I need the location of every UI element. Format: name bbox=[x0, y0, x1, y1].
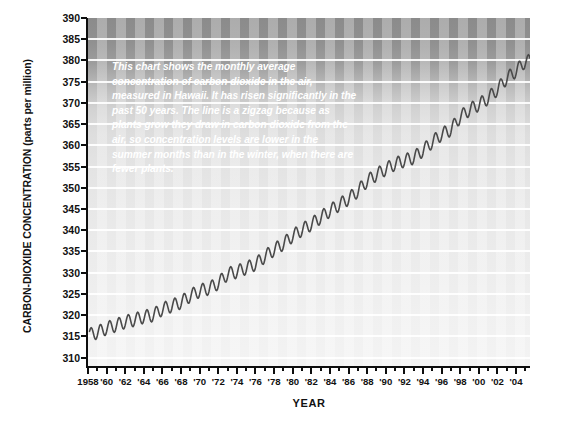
x-axis-tick-mark bbox=[199, 368, 201, 374]
y-axis-tick-label: 325 bbox=[44, 289, 80, 299]
y-axis-tick-mark bbox=[81, 357, 87, 359]
y-axis-tick-label: 320 bbox=[44, 310, 80, 320]
x-axis-minor-tick-mark bbox=[171, 368, 173, 371]
y-axis-tick-label: 360 bbox=[44, 140, 80, 150]
x-axis-tick-label: '92 bbox=[398, 376, 411, 387]
x-axis-minor-tick-mark bbox=[394, 368, 396, 371]
y-axis-tick-label: 330 bbox=[44, 268, 80, 278]
y-axis-tick-mark bbox=[81, 229, 87, 231]
chart-annotation-text: This chart shows the monthly average con… bbox=[112, 60, 360, 177]
x-axis-minor-tick-mark bbox=[375, 368, 377, 371]
x-axis-tick-label: '02 bbox=[491, 376, 504, 387]
x-axis-minor-tick-mark bbox=[264, 368, 266, 371]
y-axis-tick-mark bbox=[81, 250, 87, 252]
x-axis-tick-mark bbox=[124, 368, 126, 374]
x-axis-minor-tick-mark bbox=[227, 368, 229, 371]
x-axis-minor-tick-mark bbox=[152, 368, 154, 371]
x-axis-tick-label: '80 bbox=[286, 376, 299, 387]
x-axis-tick-label: '78 bbox=[268, 376, 281, 387]
y-axis-tick-mark bbox=[81, 166, 87, 168]
x-axis-tick-label: '94 bbox=[417, 376, 430, 387]
y-axis-tick-label: 385 bbox=[44, 34, 80, 44]
x-axis-minor-tick-mark bbox=[134, 368, 136, 371]
x-axis-tick-label: '72 bbox=[212, 376, 225, 387]
x-axis-minor-tick-mark bbox=[431, 368, 433, 371]
x-axis-tick-mark bbox=[515, 368, 517, 374]
x-axis-tick-mark bbox=[366, 368, 368, 374]
y-axis-tick-mark bbox=[81, 59, 87, 61]
x-axis-minor-tick-mark bbox=[506, 368, 508, 371]
y-axis-tick-mark bbox=[81, 123, 87, 125]
x-axis-tick-label: '82 bbox=[305, 376, 318, 387]
x-axis-tick-mark bbox=[161, 368, 163, 374]
x-axis-tick-mark bbox=[459, 368, 461, 374]
y-axis-tick-mark bbox=[81, 314, 87, 316]
x-axis-tick-mark bbox=[348, 368, 350, 374]
x-axis-tick-mark bbox=[385, 368, 387, 374]
x-axis-minor-tick-mark bbox=[320, 368, 322, 371]
x-axis-tick-label: '84 bbox=[323, 376, 336, 387]
x-axis-tick-label: '76 bbox=[249, 376, 262, 387]
x-axis-tick-label: '90 bbox=[379, 376, 392, 387]
x-axis-minor-tick-mark bbox=[115, 368, 117, 371]
y-axis-tick-mark bbox=[81, 102, 87, 104]
y-axis-tick-mark bbox=[81, 144, 87, 146]
y-axis-tick-label: 355 bbox=[44, 162, 80, 172]
x-axis-tick-mark bbox=[441, 368, 443, 374]
y-axis-tick-mark bbox=[81, 335, 87, 337]
x-axis-tick-label: '86 bbox=[342, 376, 355, 387]
y-axis-tick-label: 310 bbox=[44, 353, 80, 363]
x-axis-minor-tick-mark bbox=[524, 368, 526, 371]
x-axis-tick-label: '96 bbox=[435, 376, 448, 387]
y-axis-tick-label: 375 bbox=[44, 77, 80, 87]
x-axis-tick-label: 1958 bbox=[77, 376, 98, 387]
y-axis-tick-label: 370 bbox=[44, 98, 80, 108]
y-axis-tick-mark bbox=[81, 17, 87, 19]
x-axis-tick-label: '70 bbox=[193, 376, 206, 387]
x-axis-minor-tick-mark bbox=[96, 368, 98, 371]
x-axis-tick-label: '66 bbox=[156, 376, 169, 387]
x-axis-minor-tick-mark bbox=[282, 368, 284, 371]
x-axis-minor-tick-mark bbox=[469, 368, 471, 371]
x-axis-tick-label: '00 bbox=[472, 376, 485, 387]
x-axis-tick-mark bbox=[292, 368, 294, 374]
y-axis-tick-label: 315 bbox=[44, 331, 80, 341]
y-axis-tick-label: 390 bbox=[44, 13, 80, 23]
x-axis-tick-label: '68 bbox=[175, 376, 188, 387]
y-axis-tick-labels: 3903853803753703653603553503453403353303… bbox=[44, 18, 80, 368]
x-axis-tick-label: '04 bbox=[510, 376, 523, 387]
x-axis-tick-mark bbox=[422, 368, 424, 374]
x-axis-minor-tick-mark bbox=[413, 368, 415, 371]
x-axis-title: YEAR bbox=[88, 397, 530, 409]
co2-chart: CARBON-DIOXIDE CONCENTRATION (parts per … bbox=[0, 0, 570, 422]
x-axis-tick-label: '64 bbox=[137, 376, 150, 387]
y-axis-tick-label: 365 bbox=[44, 119, 80, 129]
x-axis-tick-mark bbox=[180, 368, 182, 374]
x-axis-tick-mark bbox=[236, 368, 238, 374]
x-axis-tick-mark bbox=[143, 368, 145, 374]
x-axis-tick-mark bbox=[273, 368, 275, 374]
x-axis-minor-tick-mark bbox=[357, 368, 359, 371]
y-axis-tick-label: 380 bbox=[44, 55, 80, 65]
y-axis-tick-mark bbox=[81, 81, 87, 83]
y-axis-tick-mark bbox=[81, 208, 87, 210]
x-axis-tick-mark bbox=[329, 368, 331, 374]
y-axis-tick-mark bbox=[81, 38, 87, 40]
x-axis-tick-mark bbox=[496, 368, 498, 374]
x-axis-minor-tick-mark bbox=[487, 368, 489, 371]
x-axis-tick-mark bbox=[87, 368, 89, 374]
x-axis-tick-labels: 1958'60'62'64'66'68'70'72'74'76'78'80'82… bbox=[0, 376, 570, 392]
x-axis-tick-mark bbox=[217, 368, 219, 374]
x-axis-tick-label: '62 bbox=[119, 376, 132, 387]
y-axis-tick-mark bbox=[81, 293, 87, 295]
y-axis-tick-label: 350 bbox=[44, 183, 80, 193]
x-axis-minor-tick-mark bbox=[450, 368, 452, 371]
x-axis-minor-tick-mark bbox=[301, 368, 303, 371]
x-axis-tick-mark bbox=[254, 368, 256, 374]
x-axis-minor-tick-mark bbox=[338, 368, 340, 371]
x-axis-minor-tick-mark bbox=[245, 368, 247, 371]
y-axis-tick-label: 340 bbox=[44, 225, 80, 235]
x-axis-tick-label: '98 bbox=[454, 376, 467, 387]
x-axis-minor-tick-mark bbox=[208, 368, 210, 371]
y-axis-tick-mark bbox=[81, 187, 87, 189]
